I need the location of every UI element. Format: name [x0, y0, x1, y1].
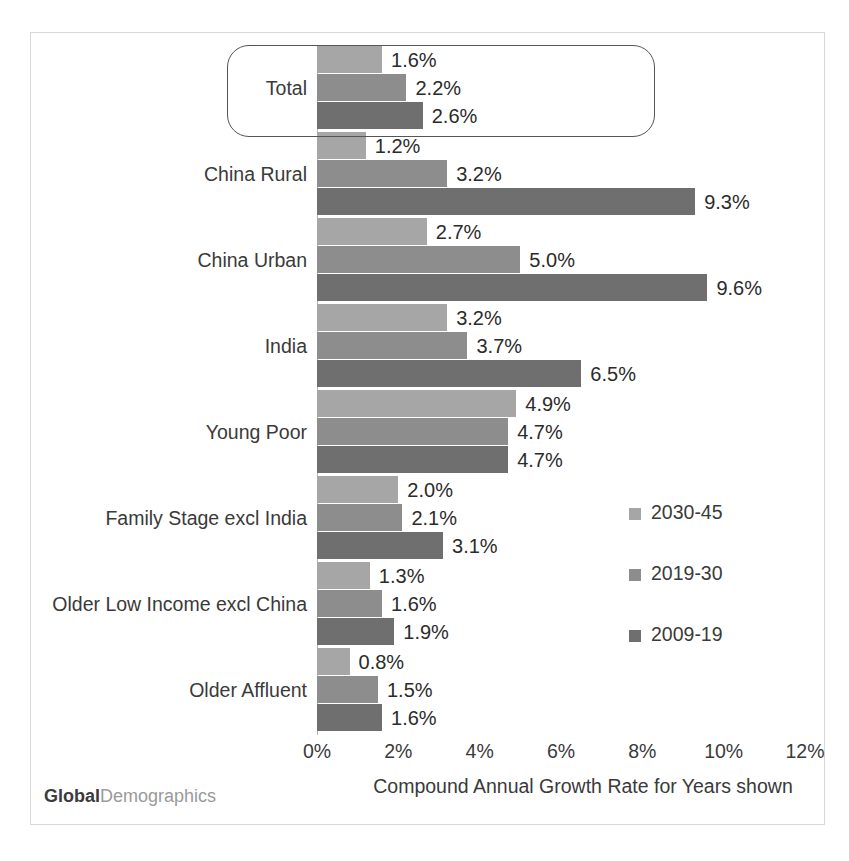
- brand-bold-text: Global: [44, 786, 100, 806]
- category-label: Total: [40, 77, 307, 99]
- legend-swatch-icon: [629, 508, 641, 520]
- bar-value-label: 0.8%: [350, 650, 405, 673]
- bar-value-label: 3.1%: [443, 534, 498, 557]
- category-label: Family Stage excl India: [40, 507, 307, 529]
- bar[interactable]: [317, 418, 508, 445]
- bar-value-label: 2.6%: [423, 104, 478, 127]
- x-axis-title: Compound Annual Growth Rate for Years sh…: [317, 775, 849, 798]
- x-axis-tick-label: 8%: [628, 740, 656, 763]
- bar-track: 1.6%: [317, 46, 849, 73]
- bar-value-label: 1.6%: [382, 48, 437, 71]
- bar-track: 4.7%: [317, 446, 849, 473]
- bar[interactable]: [317, 160, 447, 187]
- bar-value-label: 4.9%: [516, 392, 571, 415]
- bar[interactable]: [317, 532, 443, 559]
- category-label: Older Low Income excl China: [40, 593, 307, 615]
- bar-value-label: 1.5%: [378, 678, 433, 701]
- legend-item[interactable]: 2009-19: [629, 625, 799, 686]
- bar[interactable]: [317, 274, 707, 301]
- legend-label: 2009-19: [651, 623, 723, 646]
- bar-value-label: 3.7%: [467, 334, 522, 357]
- legend-item[interactable]: 2030-45: [629, 503, 799, 564]
- bar[interactable]: [317, 618, 394, 645]
- category-label: Young Poor: [40, 421, 307, 443]
- chart-legend: 2030-452019-302009-19: [629, 503, 799, 686]
- bar[interactable]: [317, 676, 378, 703]
- bar-value-label: 1.6%: [382, 592, 437, 615]
- bar-track: 1.6%: [317, 704, 849, 731]
- bar-group: 3.2%3.7%6.5%: [317, 303, 849, 389]
- bar-group: 2.7%5.0%9.6%: [317, 217, 849, 303]
- bar-group: 1.2%3.2%9.3%: [317, 131, 849, 217]
- x-axis-tick-label: 0%: [303, 740, 331, 763]
- bar-value-label: 2.7%: [427, 220, 482, 243]
- bar-value-label: 1.2%: [366, 134, 421, 157]
- bar-track: 1.2%: [317, 132, 849, 159]
- bar-track: 9.6%: [317, 274, 849, 301]
- bar-value-label: 1.6%: [382, 706, 437, 729]
- category-label: India: [40, 335, 307, 357]
- bar-track: 4.7%: [317, 418, 849, 445]
- bar[interactable]: [317, 562, 370, 589]
- bar[interactable]: [317, 218, 427, 245]
- bar[interactable]: [317, 390, 516, 417]
- bar[interactable]: [317, 476, 398, 503]
- bar-track: 3.2%: [317, 160, 849, 187]
- bar-value-label: 1.9%: [394, 620, 449, 643]
- category-row: Total1.6%2.2%2.6%: [0, 45, 849, 131]
- bar[interactable]: [317, 704, 382, 731]
- bar[interactable]: [317, 504, 402, 531]
- bar-track: 4.9%: [317, 390, 849, 417]
- x-axis-tick-label: 10%: [704, 740, 743, 763]
- bar-value-label: 5.0%: [520, 248, 575, 271]
- bar-value-label: 6.5%: [581, 362, 636, 385]
- x-axis-tick-label: 2%: [384, 740, 412, 763]
- x-axis-tick-label: 6%: [547, 740, 575, 763]
- bar-value-label: 4.7%: [508, 420, 563, 443]
- legend-swatch-icon: [629, 630, 641, 642]
- bar-track: 2.6%: [317, 102, 849, 129]
- bar-value-label: 2.1%: [402, 506, 457, 529]
- legend-swatch-icon: [629, 569, 641, 581]
- plot-area: Total1.6%2.2%2.6%China Rural1.2%3.2%9.3%…: [0, 0, 849, 861]
- x-axis-tick-label: 4%: [466, 740, 494, 763]
- category-row: China Urban2.7%5.0%9.6%: [0, 217, 849, 303]
- category-label: Older Affluent: [40, 679, 307, 701]
- bar-value-label: 1.3%: [370, 564, 425, 587]
- bar[interactable]: [317, 132, 366, 159]
- bar[interactable]: [317, 74, 406, 101]
- category-row: China Rural1.2%3.2%9.3%: [0, 131, 849, 217]
- bar[interactable]: [317, 360, 581, 387]
- category-label: China Urban: [40, 249, 307, 271]
- bar-value-label: 9.3%: [695, 190, 750, 213]
- bar-track: 6.5%: [317, 360, 849, 387]
- bar[interactable]: [317, 304, 447, 331]
- legend-item[interactable]: 2019-30: [629, 564, 799, 625]
- bar[interactable]: [317, 648, 350, 675]
- chart-page: Total1.6%2.2%2.6%China Rural1.2%3.2%9.3%…: [0, 0, 849, 861]
- x-axis-ticks: 0%2%4%6%8%10%12%: [0, 740, 849, 766]
- bar-track: 2.0%: [317, 476, 849, 503]
- bar-value-label: 2.2%: [406, 76, 461, 99]
- bar-track: 2.2%: [317, 74, 849, 101]
- bar[interactable]: [317, 246, 520, 273]
- legend-label: 2030-45: [651, 501, 723, 524]
- bar[interactable]: [317, 188, 695, 215]
- bar[interactable]: [317, 446, 508, 473]
- bar[interactable]: [317, 102, 423, 129]
- bar-track: 3.7%: [317, 332, 849, 359]
- bar[interactable]: [317, 590, 382, 617]
- bar[interactable]: [317, 46, 382, 73]
- bar-group: 4.9%4.7%4.7%: [317, 389, 849, 475]
- bar[interactable]: [317, 332, 467, 359]
- x-axis-tick-label: 12%: [785, 740, 824, 763]
- legend-label: 2019-30: [651, 562, 723, 585]
- bar-value-label: 3.2%: [447, 306, 502, 329]
- bar-value-label: 3.2%: [447, 162, 502, 185]
- category-label: China Rural: [40, 163, 307, 185]
- bar-value-label: 2.0%: [398, 478, 453, 501]
- bar-track: 3.2%: [317, 304, 849, 331]
- brand-logo: GlobalDemographics: [44, 786, 216, 807]
- category-row: Young Poor4.9%4.7%4.7%: [0, 389, 849, 475]
- bar-value-label: 4.7%: [508, 448, 563, 471]
